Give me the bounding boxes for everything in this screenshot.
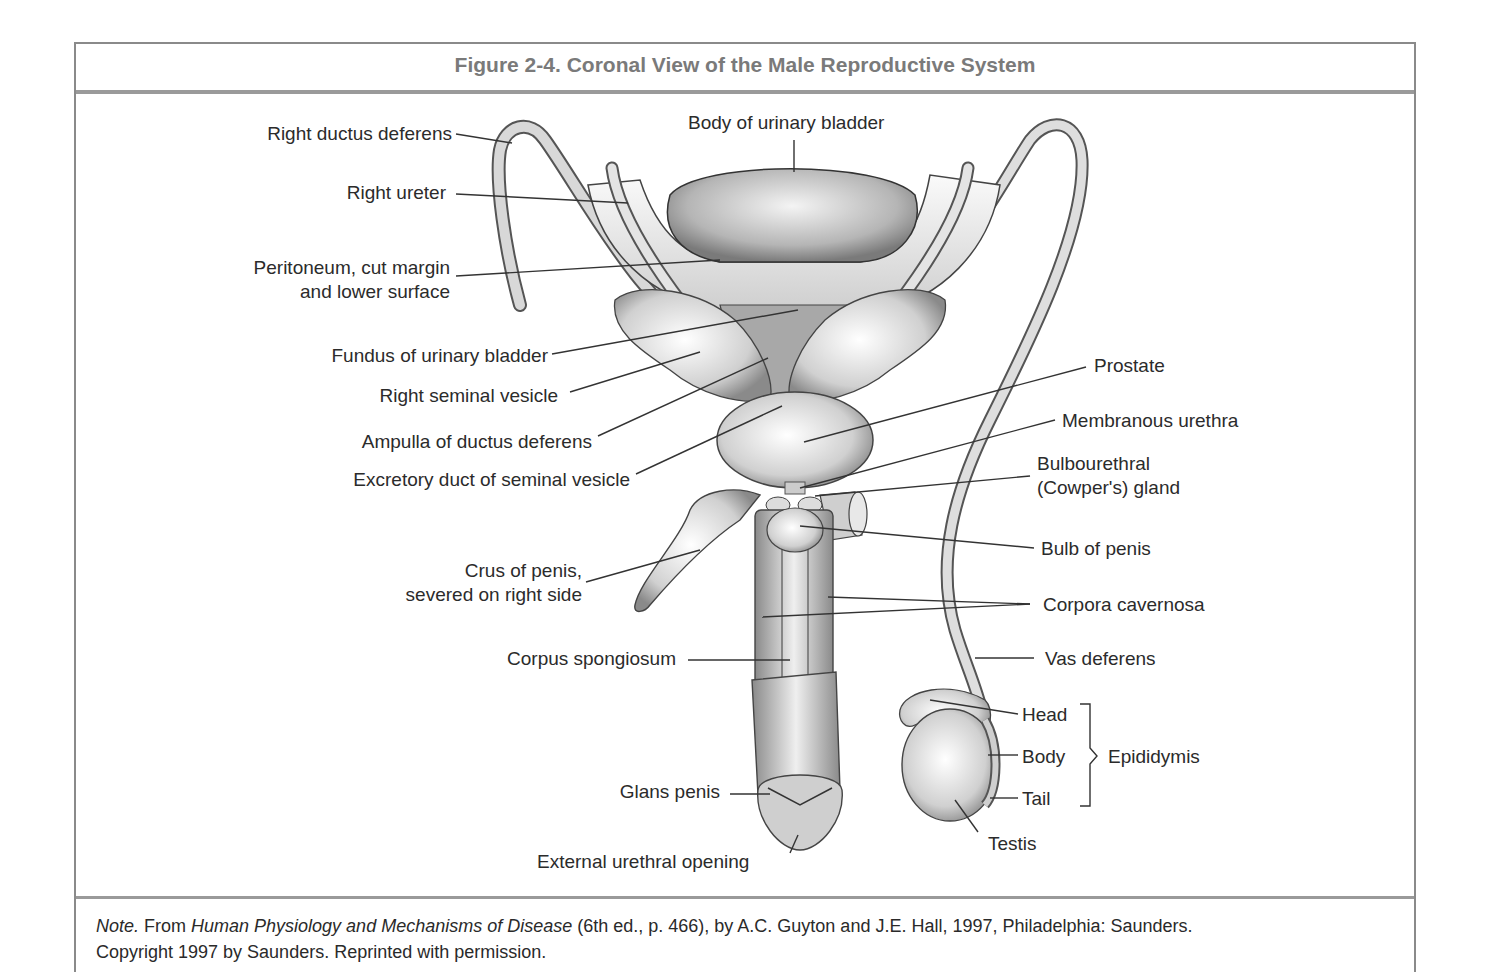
label-membranous-urethra: Membranous urethra [1062, 409, 1238, 433]
label-body-of-urinary-bladder: Body of urinary bladder [688, 111, 884, 135]
label-epididymis-tail: Tail [1022, 787, 1051, 811]
bladder-body-shape [667, 169, 917, 262]
label-peritoneum: Peritoneum, cut margin and lower surface [254, 256, 450, 304]
label-fundus-of-urinary-bladder: Fundus of urinary bladder [331, 344, 548, 368]
label-right-ductus-deferens: Right ductus deferens [267, 122, 452, 146]
label-crus-of-penis: Crus of penis, severed on right side [406, 559, 582, 607]
prostate-shape [717, 392, 873, 488]
label-right-ureter: Right ureter [347, 181, 446, 205]
bulb-shape [767, 508, 823, 552]
label-corpora-cavernosa: Corpora cavernosa [1043, 593, 1205, 617]
label-epididymis-head: Head [1022, 703, 1067, 727]
label-glans-penis: Glans penis [620, 780, 720, 804]
label-vas-deferens: Vas deferens [1045, 647, 1156, 671]
label-corpus-spongiosum: Corpus spongiosum [507, 647, 676, 671]
glans-shape [758, 775, 842, 850]
label-crus-line1: Crus of penis, [406, 559, 582, 583]
label-epididymis: Epididymis [1108, 745, 1200, 769]
label-testis: Testis [988, 832, 1037, 856]
label-epididymis-body: Body [1022, 745, 1065, 769]
label-prostate: Prostate [1094, 354, 1165, 378]
label-crus-line2: severed on right side [406, 583, 582, 607]
label-right-seminal-vesicle: Right seminal vesicle [380, 384, 558, 408]
label-peritoneum-line1: Peritoneum, cut margin [254, 256, 450, 280]
label-bulbourethral-gland: Bulbourethral (Cowper's) gland [1037, 452, 1180, 500]
label-external-urethral-opening: External urethral opening [537, 850, 749, 874]
label-bulbourethral-line2: (Cowper's) gland [1037, 476, 1180, 500]
label-bulb-of-penis: Bulb of penis [1041, 537, 1151, 561]
label-peritoneum-line2: and lower surface [254, 280, 450, 304]
label-ampulla-of-ductus-deferens: Ampulla of ductus deferens [362, 430, 592, 454]
label-bulbourethral-line1: Bulbourethral [1037, 452, 1180, 476]
label-excretory-duct: Excretory duct of seminal vesicle [353, 468, 630, 492]
